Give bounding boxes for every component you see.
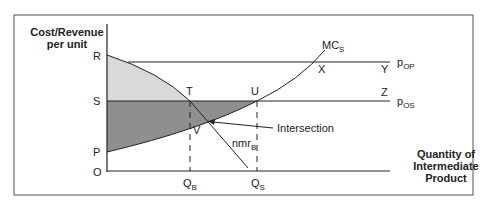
price-pos-label: pOS [397, 95, 415, 110]
y-axis-label-line2: per unit [47, 38, 88, 50]
qb-label: QB [183, 177, 197, 192]
point-s-label: S [93, 95, 100, 107]
point-t-label: T [186, 85, 193, 97]
qs-label: QS [251, 177, 265, 192]
point-x-label: X [318, 63, 326, 75]
y-axis-label-line1: Cost/Revenue [30, 26, 103, 38]
point-p-label: P [93, 146, 100, 158]
x-axis-label-line1: Quantity of [417, 148, 475, 160]
economics-diagram: Cost/Revenue per unit Quantity of Interm… [0, 0, 494, 201]
point-v-label: V [193, 124, 201, 136]
intersection-annotation: Intersection [277, 122, 334, 134]
point-y-label: Y [381, 63, 389, 75]
nmr-curve-label: nmrB [232, 137, 256, 152]
point-o-label: O [93, 166, 102, 178]
intersection-pointer [213, 122, 273, 128]
point-r-label: R [93, 50, 101, 62]
price-pop-label: pOP [397, 56, 415, 71]
x-axis-label-line3: Product [425, 172, 467, 184]
point-z-label: Z [381, 86, 388, 98]
x-axis-label-line2: Intermediate [413, 160, 478, 172]
point-u-label: U [251, 85, 259, 97]
mc-curve-label: MCS [322, 39, 344, 54]
